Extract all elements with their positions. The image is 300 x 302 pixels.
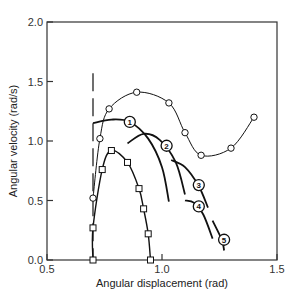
y-axis-title: Angular velocity (rad/s): [7, 85, 19, 198]
square-marker: [145, 231, 151, 237]
curve-label-number: 1: [128, 118, 133, 127]
circle-marker: [106, 106, 112, 112]
square-marker: [99, 167, 105, 173]
circle-marker: [251, 114, 257, 120]
axis-ticks: 0.00.51.01.52.00.51.01.5: [28, 16, 285, 275]
circle-marker: [90, 195, 96, 201]
series-layer: [90, 73, 257, 263]
square-marker: [125, 159, 131, 165]
circle-marker: [182, 129, 188, 135]
square-marker: [90, 257, 96, 263]
circle-marker: [97, 135, 103, 141]
circle-marker: [198, 152, 204, 158]
x-tick-label: 0.5: [39, 263, 54, 275]
square-marker: [141, 206, 147, 212]
circle-marker: [228, 145, 234, 151]
square-marker: [108, 148, 114, 154]
square-marker: [148, 257, 154, 263]
y-tick-label: 1.0: [28, 135, 43, 147]
square-marker: [90, 225, 96, 231]
x-tick-label: 1.5: [269, 263, 284, 275]
x-axis-title: Angular displacement (rad): [96, 277, 228, 289]
y-tick-label: 0.5: [28, 195, 43, 207]
circle-marker: [134, 89, 140, 95]
y-tick-label: 2.0: [28, 16, 43, 28]
y-tick-label: 1.5: [28, 76, 43, 88]
square-marker: [136, 186, 142, 192]
curve-label-number: 5: [222, 236, 227, 245]
curve-label-number: 3: [197, 181, 202, 190]
chart: 0.00.51.01.52.00.51.01.5 12345 Angular d…: [0, 0, 300, 302]
x-tick-label: 1.0: [154, 263, 169, 275]
curve-label-number: 4: [197, 202, 202, 211]
curve-label-number: 2: [164, 142, 169, 151]
circle-marker: [166, 100, 172, 106]
